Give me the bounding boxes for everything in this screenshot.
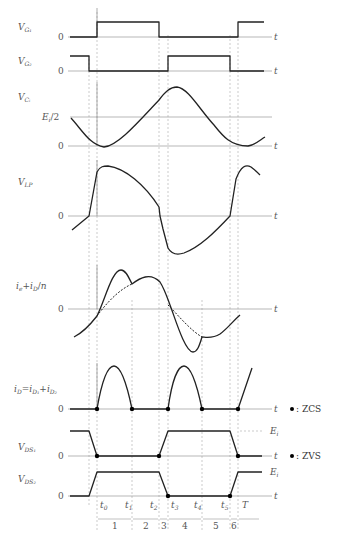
svg-text:t3: t3 xyxy=(171,500,179,511)
svg-text:2: 2 xyxy=(143,521,149,531)
signal-ie: ie+iD/n 0 t xyxy=(16,270,278,352)
svg-text:t5: t5 xyxy=(221,500,229,511)
svg-text:t: t xyxy=(274,304,278,314)
signal-vci: VCᵢ Ei/2 0 t xyxy=(18,87,278,151)
vci-ei-half-label: Ei/2 xyxy=(41,112,59,123)
signal-vds2: VDS₂ Ei 0 t xyxy=(18,467,279,501)
zcs-legend: : ZCS xyxy=(296,404,321,414)
svg-text:4: 4 xyxy=(182,521,188,531)
vg1-zero: 0 xyxy=(58,32,64,42)
svg-text:t2: t2 xyxy=(150,500,158,511)
id-label: iD=iD₁+iD₂ xyxy=(14,384,58,395)
svg-text:1: 1 xyxy=(112,521,118,531)
svg-text:t: t xyxy=(274,451,278,461)
svg-text:0: 0 xyxy=(58,491,64,501)
signal-vds1: VDS₁ Ei 0 t : ZVS xyxy=(18,426,321,461)
svg-text:t: t xyxy=(274,404,278,414)
vds1-ei-label: Ei xyxy=(269,426,279,437)
vci-label: VCᵢ xyxy=(18,92,31,103)
vg2-label: VG₂ xyxy=(18,56,32,67)
svg-text:t: t xyxy=(274,66,278,76)
svg-text:t0: t0 xyxy=(100,500,108,511)
signal-vg1: VG₁ 0 t xyxy=(18,22,278,42)
interval-labels: 1 2 3 4 5 6 xyxy=(112,521,237,531)
signal-vlp: VLP 0 t xyxy=(18,166,278,254)
vds1-label: VDS₁ xyxy=(18,442,36,453)
zvs-legend-dot xyxy=(290,454,294,458)
svg-text:0: 0 xyxy=(58,211,64,221)
svg-text:0: 0 xyxy=(58,66,64,76)
svg-text:t: t xyxy=(274,211,278,221)
svg-text:3: 3 xyxy=(161,521,167,531)
svg-text:0: 0 xyxy=(58,451,64,461)
svg-text:T: T xyxy=(242,500,249,510)
time-tick-labels: t0 t1 t2 t3 t4 t5 T xyxy=(100,500,249,511)
svg-text:t4: t4 xyxy=(194,500,202,511)
zvs-legend: : ZVS xyxy=(296,451,321,461)
signal-id: iD=iD₁+iD₂ 0 t : ZCS xyxy=(14,366,321,414)
svg-text:0: 0 xyxy=(58,404,64,414)
time-marker-lines xyxy=(89,12,262,530)
vds2-label: VDS₂ xyxy=(18,474,36,485)
zcs-legend-dot xyxy=(290,407,294,411)
svg-text:t: t xyxy=(274,491,278,501)
signal-vg2: VG₂ 0 t xyxy=(18,56,278,76)
svg-text:6: 6 xyxy=(231,521,237,531)
timing-diagram: VG₁ 0 t VG₂ 0 t VCᵢ Ei/2 0 t VLP 0 t ie+… xyxy=(0,0,337,541)
svg-text:0: 0 xyxy=(58,141,64,151)
svg-text:t1: t1 xyxy=(125,500,132,511)
vlp-label: VLP xyxy=(18,177,33,188)
vg1-label: VG₁ xyxy=(18,22,32,33)
svg-text:t: t xyxy=(274,141,278,151)
svg-text:t: t xyxy=(274,32,278,42)
svg-text:0: 0 xyxy=(58,304,64,314)
ie-label: ie+iD/n xyxy=(16,281,47,292)
svg-text:5: 5 xyxy=(213,521,219,531)
vds2-ei-label: Ei xyxy=(269,467,279,478)
